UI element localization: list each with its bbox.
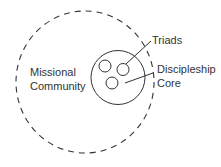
discipleship-core-leader-line xyxy=(125,73,153,83)
triad-circle xyxy=(99,60,111,72)
triad-circle xyxy=(106,77,118,89)
triads-label: Triads xyxy=(152,34,183,46)
discipleship-core-circle xyxy=(91,51,145,105)
triad-circle xyxy=(117,64,129,76)
discipleship-label-line2: Core xyxy=(157,77,181,89)
missional-label-line2: Community xyxy=(30,80,86,92)
missional-label-line1: Missional xyxy=(30,66,76,78)
missional-community-diagram: Missional Community Triads Discipleship … xyxy=(0,0,221,167)
discipleship-label-line1: Discipleship xyxy=(157,63,216,75)
